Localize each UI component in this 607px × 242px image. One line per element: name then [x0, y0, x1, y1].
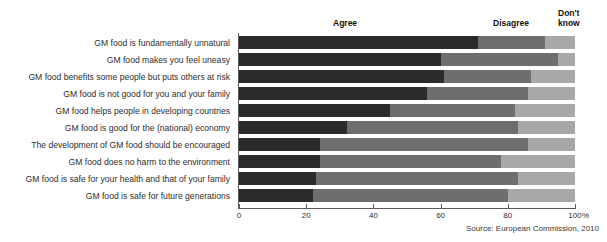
- bar-segment-disagree: [478, 36, 545, 49]
- bar-row: [239, 121, 575, 134]
- x-tick-label: 20: [302, 211, 311, 220]
- bar-segment-agree: [239, 121, 347, 134]
- bar-segment-dont-know: [518, 172, 575, 185]
- bar-segment-disagree: [427, 87, 528, 100]
- bar-segment-disagree: [320, 138, 528, 151]
- category-label: GM food helps people in developing count…: [0, 105, 230, 118]
- x-axis-line: [238, 208, 576, 209]
- bar-segment-disagree: [320, 155, 501, 168]
- x-tick-label: 40: [369, 211, 378, 220]
- bar-segment-disagree: [347, 121, 518, 134]
- bar-segment-agree: [239, 70, 444, 83]
- bar-segment-dont-know: [545, 36, 575, 49]
- axis-unit-label: %: [582, 211, 589, 220]
- bar-segment-dont-know: [501, 155, 575, 168]
- bar-segment-agree: [239, 155, 320, 168]
- x-tick: [239, 204, 240, 209]
- bar-segment-disagree: [441, 53, 559, 66]
- bar-segment-dont-know: [508, 189, 575, 202]
- x-tick-label: 100: [568, 211, 581, 220]
- bar-segment-agree: [239, 172, 316, 185]
- bar-segment-dont-know: [515, 104, 575, 117]
- x-tick: [441, 204, 442, 209]
- category-label: GM food is not good for you and your fam…: [0, 88, 230, 101]
- category-label: GM food is safe for your health and that…: [0, 173, 230, 186]
- bar-segment-agree: [239, 138, 320, 151]
- bar-segment-agree: [239, 36, 478, 49]
- x-tick: [306, 204, 307, 209]
- category-label: GM food does no harm to the environment: [0, 156, 230, 169]
- bar-row: [239, 155, 575, 168]
- bar-segment-disagree: [390, 104, 514, 117]
- bar-row: [239, 172, 575, 185]
- bar-segment-agree: [239, 189, 313, 202]
- x-tick: [575, 204, 576, 209]
- category-labels: GM food is fundamentally unnaturalGM foo…: [0, 36, 234, 206]
- bar-row: [239, 36, 575, 49]
- column-header-dont-know: Don't know: [558, 9, 580, 28]
- bar-segment-dont-know: [528, 87, 575, 100]
- category-label: GM food benefits some people but puts ot…: [0, 71, 230, 84]
- x-tick-label: 60: [436, 211, 445, 220]
- category-label: GM food is good for the (national) econo…: [0, 122, 230, 135]
- x-tick: [373, 204, 374, 209]
- bar-segment-disagree: [444, 70, 531, 83]
- x-tick-label: 80: [503, 211, 512, 220]
- bar-row: [239, 138, 575, 151]
- bar-row: [239, 53, 575, 66]
- bar-row: [239, 104, 575, 117]
- bar-row: [239, 189, 575, 202]
- stacked-bar-chart: Agree Disagree Don't know GM food is fun…: [0, 0, 607, 242]
- bar-segment-dont-know: [528, 138, 575, 151]
- bar-row: [239, 87, 575, 100]
- x-tick-label: 0: [237, 211, 241, 220]
- category-label: The development of GM food should be enc…: [0, 139, 230, 152]
- bar-segment-disagree: [316, 172, 518, 185]
- category-label: GM food is fundamentally unnatural: [0, 37, 230, 50]
- bar-segment-dont-know: [518, 121, 575, 134]
- cropped-title: [0, 0, 607, 4]
- category-label: GM food makes you feel uneasy: [0, 54, 230, 67]
- bar-segment-dont-know: [558, 53, 575, 66]
- bar-segment-disagree: [313, 189, 508, 202]
- x-tick: [508, 204, 509, 209]
- bar-segment-dont-know: [531, 70, 575, 83]
- bar-row: [239, 70, 575, 83]
- plot-area: [239, 36, 575, 206]
- bar-segment-agree: [239, 104, 390, 117]
- bar-segment-agree: [239, 87, 427, 100]
- column-header-disagree: Disagree: [493, 19, 529, 29]
- source-note: Source: European Commission, 2010: [466, 224, 599, 233]
- category-label: GM food is safe for future generations: [0, 190, 230, 203]
- bar-segment-agree: [239, 53, 441, 66]
- column-header-agree: Agree: [333, 19, 357, 29]
